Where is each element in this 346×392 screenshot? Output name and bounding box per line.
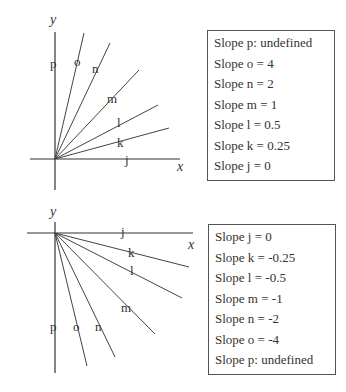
top-line-n bbox=[55, 43, 110, 159]
top-label-o: o bbox=[74, 54, 81, 69]
top-line-o bbox=[55, 33, 84, 159]
top-label-j: j bbox=[124, 152, 129, 167]
legend-item: Slope k = 0.25 bbox=[214, 136, 330, 157]
bottom-chart: y x j k l m n o p bbox=[27, 204, 195, 373]
bottom-label-m: m bbox=[121, 300, 131, 315]
legend-item: Slope m = 1 bbox=[214, 95, 330, 116]
top-line-l bbox=[55, 105, 158, 159]
top-label-l: l bbox=[117, 115, 121, 130]
top-line-k bbox=[55, 128, 169, 159]
top-label-m: m bbox=[107, 91, 117, 106]
legend-item: Slope p: undefined bbox=[215, 350, 331, 371]
bottom-line-m bbox=[55, 233, 155, 334]
legend-item: Slope n = -2 bbox=[215, 309, 331, 330]
legend-item: Slope j = 0 bbox=[215, 227, 331, 248]
bottom-label-j: j bbox=[120, 224, 125, 239]
legend-item: Slope o = 4 bbox=[214, 54, 330, 75]
top-chart: y x p o n m l k j bbox=[30, 12, 184, 190]
bottom-y-label: y bbox=[48, 204, 57, 219]
top-y-label: y bbox=[48, 12, 57, 27]
bottom-label-k: k bbox=[128, 245, 135, 260]
top-label-n: n bbox=[92, 61, 99, 76]
legend-item: Slope n = 2 bbox=[214, 74, 330, 95]
bottom-line-o bbox=[55, 233, 87, 366]
top-label-p: p bbox=[50, 56, 57, 71]
legend-item: Slope o = -4 bbox=[215, 330, 331, 351]
bottom-line-n bbox=[55, 233, 115, 357]
top-legend: Slope p: undefined Slope o = 4 Slope n =… bbox=[207, 30, 335, 181]
bottom-label-p: p bbox=[50, 319, 57, 334]
top-label-k: k bbox=[117, 135, 124, 150]
bottom-label-l: l bbox=[130, 263, 134, 278]
bottom-line-l bbox=[55, 233, 182, 298]
bottom-legend: Slope j = 0 Slope k = -0.25 Slope l = -0… bbox=[208, 224, 336, 375]
top-line-m bbox=[55, 70, 139, 159]
legend-item: Slope p: undefined bbox=[214, 33, 330, 54]
legend-item: Slope m = -1 bbox=[215, 289, 331, 310]
legend-item: Slope l = 0.5 bbox=[214, 115, 330, 136]
bottom-x-label: x bbox=[187, 237, 195, 252]
legend-item: Slope k = -0.25 bbox=[215, 248, 331, 269]
legend-item: Slope j = 0 bbox=[214, 156, 330, 177]
legend-item: Slope l = -0.5 bbox=[215, 268, 331, 289]
bottom-label-o: o bbox=[73, 319, 80, 334]
top-x-label: x bbox=[176, 159, 184, 174]
bottom-label-n: n bbox=[95, 319, 102, 334]
